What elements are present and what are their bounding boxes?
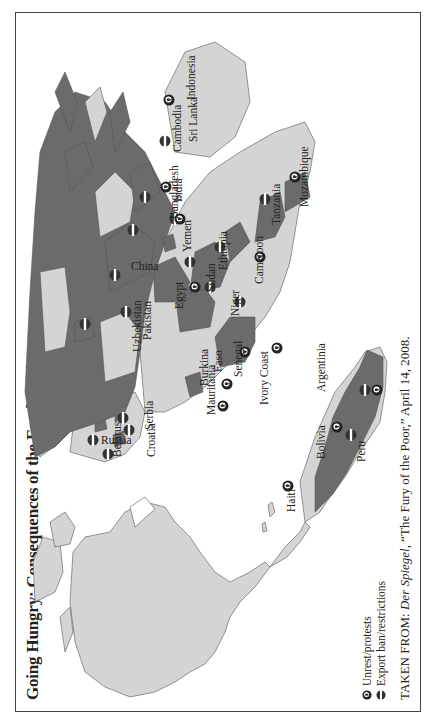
label-peru: Peru	[355, 441, 367, 462]
label-argentinia: Argentinia	[315, 343, 327, 392]
export-ban-icon	[376, 690, 386, 700]
map-legend: Unrest/protests Export ban/restrictions	[360, 581, 388, 700]
rotated-map-figure: Going Hungry: Consequences of the Food C…	[15, 12, 421, 712]
label-cameroon: Cameroon	[253, 236, 265, 284]
source-publication: Der Spiegel	[397, 548, 412, 610]
source-citation: TAKEN FROM: Der Spiegel, “The Fury of th…	[397, 337, 413, 701]
source-prefix: TAKEN FROM:	[397, 610, 412, 700]
legend-item-unrest: Unrest/protests	[360, 581, 374, 700]
unrest-protest-icon	[362, 690, 372, 700]
label-haiti: Haiti	[285, 489, 297, 512]
label-ethiopia: Ethiopia	[217, 231, 229, 270]
south-america	[300, 347, 387, 522]
label-sri-lanka: Sri Lanka	[187, 97, 199, 142]
source-rest: , “The Fury of the Poor,” April 14, 2008…	[397, 337, 412, 549]
label-china: China	[131, 260, 158, 272]
label-serbia: Serbia	[143, 401, 155, 430]
label-mozambique: Mozambique	[298, 146, 310, 207]
label-yemen: Yemen	[181, 220, 193, 252]
north-america	[33, 497, 270, 697]
legend-item-export-ban: Export ban/restrictions	[374, 581, 388, 700]
label-mauritania: Mauritania	[205, 365, 217, 415]
label-tanzania: Tanzania	[270, 184, 282, 225]
label-indonesia: Indonesia	[185, 55, 197, 100]
label-niger: Niger	[229, 290, 241, 316]
label-belarus: Belarus	[111, 422, 123, 457]
label-cambodia: Cambodia	[171, 105, 183, 152]
label-bolivia: Bolivia	[315, 425, 327, 459]
legend-label: Export ban/restrictions	[375, 581, 387, 686]
label-egypt: Egypt	[173, 282, 185, 309]
label-sudan: Sudan	[205, 263, 217, 292]
label-bangladesh: Bangladesh	[168, 165, 180, 219]
label-senegal: Senegal	[232, 341, 244, 377]
label-pakistan: Pakistan	[141, 301, 153, 340]
label-ivory-coast: Ivory Coast	[258, 351, 270, 405]
legend-label: Unrest/protests	[361, 616, 373, 686]
